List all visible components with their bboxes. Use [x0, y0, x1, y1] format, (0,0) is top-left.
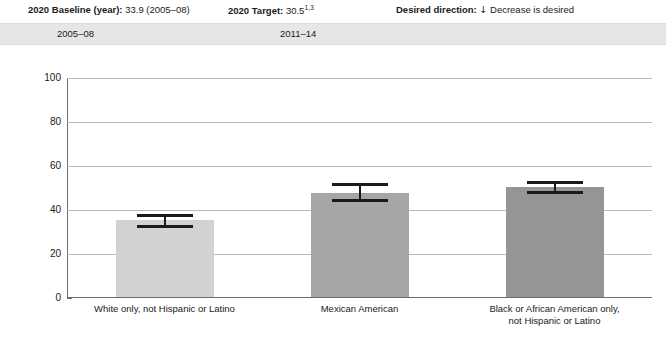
bar [116, 220, 214, 297]
y-axis-tick-label: 100 [31, 72, 61, 83]
target-footnote-marker: 1,3 [304, 4, 314, 11]
target-stat: 2020 Target: 30.51,3 [228, 4, 314, 16]
period-label-2: 2011–14 [280, 28, 316, 39]
period-label-1: 2005–08 [57, 28, 94, 39]
error-bar-lower-cap [332, 199, 388, 202]
baseline-label: 2020 Baseline (year): [28, 4, 123, 15]
baseline-value: 33.9 (2005–08) [125, 4, 189, 15]
desired-direction-stat: Desired direction: ↓ Decrease is desired [396, 4, 574, 15]
x-axis-category-label: White only, not Hispanic or Latino [67, 303, 262, 315]
x-axis-category-label-line: White only, not Hispanic or Latino [67, 303, 262, 315]
period-band: 2005–08 2011–14 [0, 23, 666, 45]
error-bar-lower-cap [527, 191, 583, 194]
x-axis-category-label-line: Mexican American [262, 303, 457, 315]
y-axis-tick-labels: 020406080100 [29, 78, 61, 299]
x-axis-category-label: Black or African American only,not Hispa… [457, 303, 652, 326]
plot-area [67, 78, 652, 298]
y-axis-tick-label: 40 [31, 204, 61, 215]
x-axis-category-label-line: not Hispanic or Latino [457, 315, 652, 327]
baseline-stat: 2020 Baseline (year): 33.9 (2005–08) [28, 4, 190, 15]
desired-direction-value: Decrease is desired [490, 4, 574, 15]
error-bar-upper-cap [332, 183, 388, 186]
bar [311, 193, 409, 297]
error-bar-upper-cap [527, 181, 583, 184]
x-axis-category-labels: White only, not Hispanic or LatinoMexica… [0, 303, 666, 343]
x-axis-category-label: Mexican American [262, 303, 457, 315]
gridline [67, 166, 652, 167]
x-axis-category-label-line: Black or African American only, [457, 303, 652, 315]
chart-header-bar: 2020 Baseline (year): 33.9 (2005–08) 202… [0, 0, 666, 22]
target-label: 2020 Target: [228, 5, 283, 16]
error-bar-upper-cap [137, 214, 193, 217]
y-axis-tick-label: 80 [31, 116, 61, 127]
down-arrow-icon: ↓ [479, 4, 487, 15]
gridline [67, 122, 652, 123]
error-bar-lower-cap [137, 225, 193, 228]
gridline [67, 78, 652, 79]
x-axis-line [67, 297, 652, 298]
desired-direction-label: Desired direction: [396, 4, 477, 15]
target-value: 30.5 [286, 5, 305, 16]
y-axis-line [67, 78, 68, 299]
y-axis-tick-label: 0 [31, 292, 61, 303]
bar [506, 187, 604, 297]
y-axis-tick-label: 60 [31, 160, 61, 171]
y-axis-tick-label: 20 [31, 248, 61, 259]
